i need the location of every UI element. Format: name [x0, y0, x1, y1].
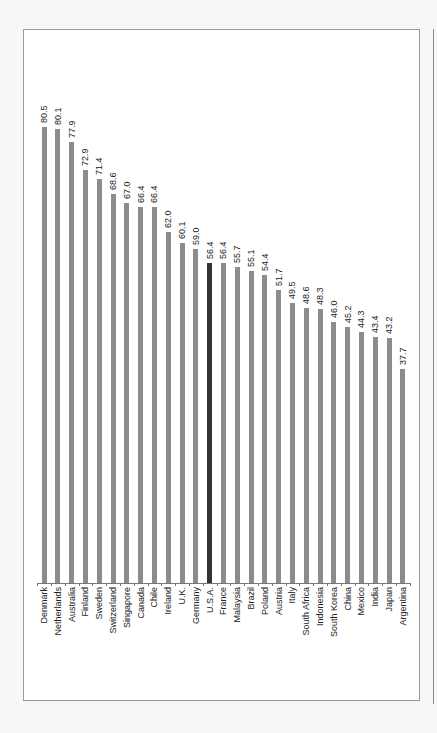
- bar: [124, 203, 129, 583]
- category-label: Mexico: [356, 587, 366, 677]
- bar: [318, 309, 323, 583]
- category-label: Australia: [67, 587, 77, 677]
- category-label: France: [218, 587, 228, 677]
- value-label: 37.7: [398, 348, 408, 366]
- category-label: Japan: [384, 587, 394, 677]
- bar: [235, 267, 240, 583]
- category-label: Netherlands: [53, 587, 63, 677]
- bar: [359, 332, 364, 583]
- category-label: Austria: [274, 587, 284, 677]
- value-label: 59.0: [191, 227, 201, 245]
- value-label: 72.9: [80, 148, 90, 166]
- value-label: 56.4: [205, 242, 215, 260]
- value-label: 55.1: [246, 249, 256, 267]
- category-label: Denmark: [39, 587, 49, 677]
- bar: [373, 337, 378, 583]
- value-label: 43.2: [384, 317, 394, 335]
- bar: [290, 303, 295, 583]
- value-label: 45.2: [343, 305, 353, 323]
- value-label: 77.9: [67, 120, 77, 138]
- bar: [400, 369, 405, 583]
- category-label: Chile: [149, 587, 159, 677]
- bar-chart: 80.5Denmark80.1Netherlands77.9Australia7…: [0, 0, 437, 733]
- value-label: 43.4: [370, 316, 380, 334]
- value-label: 48.3: [315, 288, 325, 306]
- bar: [193, 249, 198, 583]
- category-label: Malaysia: [232, 587, 242, 677]
- value-label: 66.4: [136, 185, 146, 203]
- category-label: Brazil: [246, 587, 256, 677]
- bar: [111, 194, 116, 583]
- value-label: 67.0: [122, 182, 132, 200]
- value-label: 66.4: [149, 185, 159, 203]
- category-label: Singapore: [122, 587, 132, 677]
- value-label: 62.0: [163, 210, 173, 228]
- bar: [276, 290, 281, 583]
- category-label: Ireland: [163, 587, 173, 677]
- value-label: 80.1: [53, 108, 63, 126]
- value-label: 51.7: [274, 269, 284, 287]
- category-label: South Africa: [301, 587, 311, 677]
- bar: [69, 142, 74, 583]
- bar: [138, 207, 143, 583]
- category-label: India: [370, 587, 380, 677]
- category-label: Canada: [136, 587, 146, 677]
- category-label: U.K.: [177, 587, 187, 677]
- value-label: 60.1: [177, 221, 187, 239]
- category-label: Switzerland: [108, 587, 118, 677]
- bar: [180, 243, 185, 583]
- category-label: Argentina: [398, 587, 408, 677]
- bar: [262, 275, 267, 583]
- value-label: 55.7: [232, 246, 242, 264]
- category-label: U.S.A.: [205, 587, 215, 677]
- category-label: Sweden: [94, 587, 104, 677]
- category-label: South Korea: [329, 587, 339, 677]
- category-label: Finland: [80, 587, 90, 677]
- value-label: 54.4: [260, 253, 270, 271]
- bar: [83, 170, 88, 583]
- bar: [42, 127, 47, 583]
- category-label: Italy: [287, 587, 297, 677]
- bar: [331, 322, 336, 583]
- value-label: 44.3: [356, 311, 366, 329]
- bar: [166, 232, 171, 583]
- bar: [207, 263, 212, 583]
- category-label: China: [343, 587, 353, 677]
- bar: [304, 308, 309, 583]
- value-label: 56.4: [218, 242, 228, 260]
- category-label: Poland: [260, 587, 270, 677]
- bar: [221, 263, 226, 583]
- value-label: 49.5: [287, 281, 297, 299]
- value-label: 48.6: [301, 286, 311, 304]
- category-label: Indonesia: [315, 587, 325, 677]
- x-axis: [37, 583, 411, 584]
- value-label: 68.6: [108, 173, 118, 191]
- value-label: 80.5: [39, 105, 49, 123]
- value-label: 71.4: [94, 157, 104, 175]
- value-label: 46.0: [329, 301, 339, 319]
- bar: [152, 207, 157, 583]
- bar: [97, 179, 102, 583]
- bar: [249, 271, 254, 583]
- bar: [345, 327, 350, 583]
- bar: [55, 129, 60, 583]
- bar: [387, 338, 392, 583]
- category-label: Germany: [191, 587, 201, 677]
